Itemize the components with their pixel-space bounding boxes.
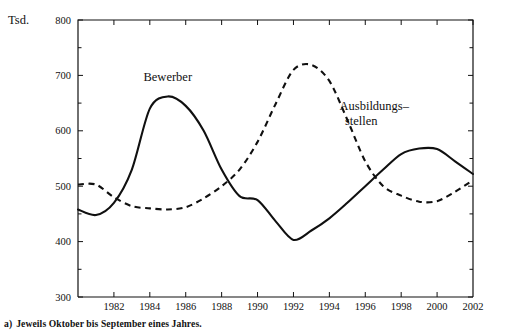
- x-tick-label: 1984: [139, 301, 161, 312]
- series-label-ausbildungsstellen: Ausbildungs–stellen: [340, 99, 410, 128]
- line-chart: 300400500600700800 198219841986198819901…: [0, 0, 515, 312]
- chart-series: [78, 64, 473, 240]
- x-tick-label: 1990: [247, 301, 268, 312]
- footnote: a)Jeweils Oktober bis September eines Ja…: [4, 318, 202, 329]
- footnote-marker: a): [4, 318, 12, 329]
- x-tick-label: 2002: [463, 301, 484, 312]
- figure-title: [0, 0, 515, 6]
- x-tick-label: 1982: [103, 301, 124, 312]
- x-axis-ticks: 1982198419861988199019921994199619982000…: [103, 20, 483, 312]
- series-line-bewerber: [78, 96, 473, 240]
- x-tick-label: 1986: [175, 301, 196, 312]
- x-tick-label: 1996: [355, 301, 376, 312]
- x-tick-label: 1994: [319, 301, 341, 312]
- series-annotations: BewerberAusbildungs–stellen: [143, 70, 409, 128]
- y-axis-ticks: 300400500600700800: [55, 15, 473, 303]
- chart-axes: [78, 20, 473, 297]
- y-tick-label: 300: [55, 292, 71, 303]
- y-tick-label: 400: [55, 236, 71, 247]
- y-tick-label: 500: [55, 181, 71, 192]
- series-label-bewerber: Bewerber: [143, 70, 192, 84]
- footnote-text: Jeweils Oktober bis September eines Jahr…: [16, 318, 202, 329]
- x-tick-label: 1988: [211, 301, 232, 312]
- series-line-ausbildungsstellen: [78, 64, 473, 209]
- y-tick-label: 700: [55, 70, 71, 81]
- y-tick-label: 600: [55, 125, 71, 136]
- x-tick-label: 1992: [283, 301, 304, 312]
- plot-frame: [78, 20, 473, 297]
- x-tick-label: 2000: [427, 301, 448, 312]
- y-axis-unit-label: Tsd.: [8, 13, 29, 28]
- y-tick-label: 800: [55, 15, 71, 26]
- x-tick-label: 1998: [391, 301, 412, 312]
- figure-container: Tsd. 300400500600700800 1982198419861988…: [0, 0, 515, 335]
